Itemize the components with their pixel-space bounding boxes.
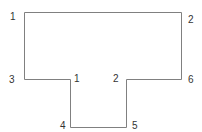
vertex-label-bottom-left: 4	[60, 120, 66, 131]
vertex-label-top-right: 2	[188, 14, 194, 25]
vertex-label-stem-right-top: 2	[113, 73, 119, 84]
vertex-label-stem-left-top: 1	[74, 73, 80, 84]
vertex-label-mid-left: 3	[9, 74, 15, 85]
vertex-label-bottom-right: 5	[132, 120, 138, 131]
t-shape-outline	[25, 13, 182, 128]
vertex-label-mid-right: 6	[188, 74, 194, 85]
vertex-label-top-left: 1	[10, 11, 16, 22]
t-shape-diagram: 1 2 3 1 2 6 4 5	[0, 0, 202, 132]
vertex-labels: 1 2 3 1 2 6 4 5	[9, 11, 194, 131]
